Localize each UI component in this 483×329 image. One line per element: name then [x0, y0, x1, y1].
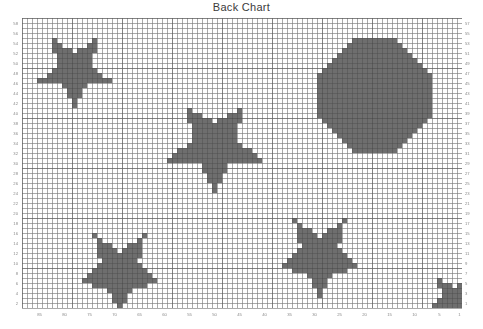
chart-cell — [222, 168, 227, 173]
axis-left-tick: 18 — [2, 221, 18, 226]
axis-left-tick: 6 — [2, 281, 18, 286]
chart-cell — [77, 93, 82, 98]
axis-right-tick: 47 — [465, 71, 481, 76]
chart-cell — [392, 148, 397, 153]
axis-left-tick: 42 — [2, 101, 18, 106]
axis-right-tick: 5 — [465, 281, 481, 286]
axis-right-tick: 13 — [465, 241, 481, 246]
axis-bottom-tick: 60 — [157, 312, 173, 317]
axis-left-tick: 12 — [2, 251, 18, 256]
chart-cell — [407, 133, 412, 138]
chart-cell — [342, 268, 347, 273]
chart-cell — [397, 143, 402, 148]
chart-cell — [457, 303, 462, 308]
axis-left-tick: 50 — [2, 61, 18, 66]
axis-right-tick: 11 — [465, 251, 481, 256]
axis-left-tick: 4 — [2, 291, 18, 296]
axis-right-tick: 17 — [465, 221, 481, 226]
chart-cell — [122, 298, 127, 303]
axis-bottom-tick: 35 — [282, 312, 298, 317]
axis-right-tick: 9 — [465, 261, 481, 266]
axis-bottom-tick: 65 — [132, 312, 148, 317]
chart-plot-area — [22, 18, 462, 310]
chart-cell — [422, 118, 427, 123]
axis-left-tick: 30 — [2, 161, 18, 166]
back-chart-page: Back Chart 58565452504846444240383634323… — [0, 0, 483, 329]
axis-left-tick: 26 — [2, 181, 18, 186]
axis-right-tick: 31 — [465, 151, 481, 156]
axis-right-tick: 57 — [465, 21, 481, 26]
axis-left-tick: 40 — [2, 111, 18, 116]
axis-right-tick: 29 — [465, 161, 481, 166]
chart-cell — [107, 78, 112, 83]
chart-cell — [142, 283, 147, 288]
axis-left-tick: 56 — [2, 31, 18, 36]
chart-cell — [337, 238, 342, 243]
axis-left-tick: 28 — [2, 171, 18, 176]
axis-left-tick: 52 — [2, 51, 18, 56]
axis-bottom-tick: 85 — [32, 312, 48, 317]
axis-left-tick: 44 — [2, 91, 18, 96]
chart-cell — [92, 48, 97, 53]
chart-cell — [117, 303, 122, 308]
axis-left-tick: 38 — [2, 121, 18, 126]
axis-right-tick: 33 — [465, 141, 481, 146]
chart-cell — [342, 218, 347, 223]
axis-right-tick: 15 — [465, 231, 481, 236]
axis-right-tick: 37 — [465, 121, 481, 126]
chart-cell — [352, 263, 357, 268]
axis-left-tick: 2 — [2, 301, 18, 306]
axis-bottom-tick: 50 — [207, 312, 223, 317]
axis-left-tick: 54 — [2, 41, 18, 46]
axis-right-tick: 39 — [465, 111, 481, 116]
axis-right-tick: 45 — [465, 81, 481, 86]
axis-bottom-tick: 25 — [332, 312, 348, 317]
axis-left-tick: 36 — [2, 131, 18, 136]
chart-cell — [322, 283, 327, 288]
axis-bottom-tick: 20 — [357, 312, 373, 317]
axis-right-tick: 21 — [465, 201, 481, 206]
axis-right-tick: 41 — [465, 101, 481, 106]
chart-cell — [217, 178, 222, 183]
axis-right-tick: 53 — [465, 41, 481, 46]
axis-bottom-tick: 5 — [432, 312, 448, 317]
axis-bottom-tick: 75 — [82, 312, 98, 317]
chart-cell — [72, 103, 77, 108]
axis-left-tick: 58 — [2, 21, 18, 26]
axis-left-tick: 46 — [2, 81, 18, 86]
axis-left-tick: 20 — [2, 211, 18, 216]
axis-left-tick: 8 — [2, 271, 18, 276]
axis-right-tick: 51 — [465, 51, 481, 56]
axis-bottom-tick: 70 — [107, 312, 123, 317]
chart-cell — [257, 158, 262, 163]
chart-filled-cells — [22, 18, 462, 310]
chart-title: Back Chart — [0, 1, 483, 14]
chart-cell — [402, 138, 407, 143]
chart-cell — [127, 288, 132, 293]
axis-bottom-tick: 1 — [452, 312, 468, 317]
axis-left-tick: 32 — [2, 151, 18, 156]
axis-left-tick: 22 — [2, 201, 18, 206]
axis-right-tick: 49 — [465, 61, 481, 66]
axis-right-tick: 7 — [465, 271, 481, 276]
axis-right-tick: 19 — [465, 211, 481, 216]
axis-right-tick: 1 — [465, 301, 481, 306]
axis-bottom-tick: 45 — [232, 312, 248, 317]
chart-cell — [327, 273, 332, 278]
axis-left-tick: 10 — [2, 261, 18, 266]
axis-bottom-tick: 10 — [407, 312, 423, 317]
axis-right-tick: 27 — [465, 171, 481, 176]
axis-right-tick: 35 — [465, 131, 481, 136]
chart-cell — [137, 253, 142, 258]
axis-left-tick: 48 — [2, 71, 18, 76]
chart-cell — [417, 123, 422, 128]
axis-right-tick: 23 — [465, 191, 481, 196]
axis-left-tick: 24 — [2, 191, 18, 196]
axis-bottom-tick: 80 — [57, 312, 73, 317]
chart-cell — [212, 188, 217, 193]
axis-right-tick: 25 — [465, 181, 481, 186]
chart-cell — [412, 128, 417, 133]
axis-right-tick: 55 — [465, 31, 481, 36]
chart-cell — [152, 278, 157, 283]
chart-cell — [317, 293, 322, 298]
